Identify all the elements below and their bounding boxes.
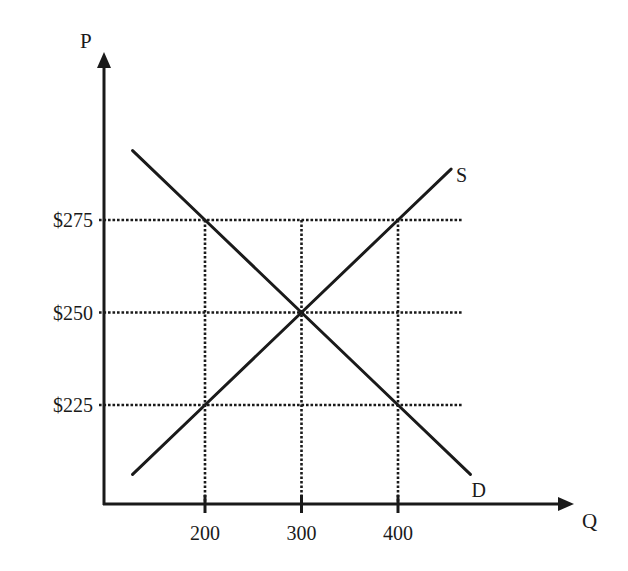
x-tick-label: 200 xyxy=(190,522,220,544)
y-axis-title: P xyxy=(80,29,92,53)
x-axis-title: Q xyxy=(582,509,597,533)
reference-lines xyxy=(99,220,462,504)
y-tick-label: $250 xyxy=(53,302,93,324)
y-tick-label: $225 xyxy=(53,394,93,416)
supply-curve xyxy=(133,169,452,474)
axes: P Q xyxy=(80,29,597,533)
y-tick-label: $275 xyxy=(53,209,93,231)
x-tick-label: 300 xyxy=(287,522,317,544)
x-tick-label: 400 xyxy=(383,522,413,544)
supply-demand-chart: P Q $225$250$275200300400 DS xyxy=(0,0,628,571)
x-axis-arrow-icon xyxy=(558,497,574,511)
curves: DS xyxy=(133,151,486,502)
demand-label: D xyxy=(471,479,485,501)
y-axis-arrow-icon xyxy=(97,52,111,68)
supply-label: S xyxy=(456,164,467,186)
